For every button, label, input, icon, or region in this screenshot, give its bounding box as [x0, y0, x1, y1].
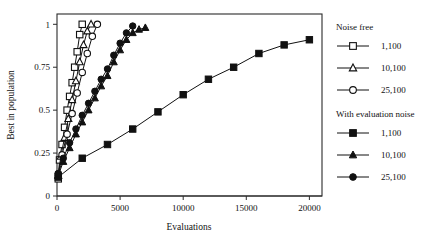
marker-open-circle — [89, 33, 95, 39]
marker-filled-square — [350, 130, 357, 137]
y-axis-ticks: 00.250.50.751 — [34, 20, 57, 202]
marker-filled-square — [130, 126, 136, 132]
series-line-noisy_1_100 — [58, 40, 309, 177]
marker-filled-circle — [55, 170, 61, 176]
marker-filled-circle — [85, 100, 91, 106]
marker-filled-triangle — [349, 151, 356, 158]
marker-filled-circle — [98, 76, 104, 82]
marker-filled-circle — [123, 30, 129, 36]
marker-open-circle — [74, 90, 80, 96]
legend-item-label: 10,100 — [381, 150, 406, 160]
chart-canvas: 00.250.50.751 05000100001500020000 Evalu… — [0, 0, 441, 244]
marker-open-triangle — [76, 58, 83, 65]
marker-open-triangle — [84, 27, 91, 34]
marker-open-triangle — [80, 41, 87, 48]
marker-filled-square — [155, 109, 161, 115]
marker-filled-square — [281, 42, 287, 48]
marker-filled-circle — [117, 40, 123, 46]
legend-item-label: 10,100 — [381, 63, 406, 73]
marker-filled-square — [230, 64, 236, 70]
marker-open-circle — [94, 21, 100, 27]
legend-item-noise_free_10_100[interactable]: 10,100 — [337, 63, 406, 73]
y-tick-label: 0 — [46, 191, 51, 201]
y-tick-label: 1 — [46, 20, 51, 30]
marker-open-circle — [84, 50, 90, 56]
marker-filled-circle — [111, 52, 117, 58]
series-noisy_1_100 — [55, 37, 313, 181]
marker-open-square — [77, 31, 83, 37]
chart-legend: Noise free1,10010,10025,100With evaluati… — [336, 22, 415, 182]
x-tick-label: 10000 — [172, 203, 195, 213]
y-axis-title: Best in population — [6, 70, 16, 140]
legend-heading: Noise free — [336, 22, 373, 32]
legend-item-noisy_25_100[interactable]: 25,100 — [337, 172, 406, 182]
marker-filled-circle — [350, 174, 357, 181]
marker-filled-square — [79, 155, 85, 161]
marker-open-triangle — [349, 64, 356, 71]
legend-item-noise_free_1_100[interactable]: 1,100 — [337, 41, 402, 51]
marker-open-square — [74, 49, 80, 55]
marker-open-triangle — [88, 21, 95, 28]
marker-open-square — [79, 21, 85, 27]
x-tick-label: 15000 — [235, 203, 258, 213]
marker-filled-square — [180, 91, 186, 97]
legend-item-noisy_10_100[interactable]: 10,100 — [337, 150, 406, 160]
legend-heading: With evaluation noise — [336, 109, 415, 119]
legend-item-noisy_1_100[interactable]: 1,100 — [337, 128, 402, 138]
figure: 00.250.50.751 05000100001500020000 Evalu… — [0, 0, 441, 244]
marker-filled-circle — [104, 66, 110, 72]
marker-filled-triangle — [142, 24, 149, 31]
legend-item-label: 25,100 — [381, 172, 406, 182]
marker-open-circle — [79, 69, 85, 75]
x-tick-label: 0 — [55, 203, 60, 213]
marker-filled-square — [104, 141, 110, 147]
x-tick-label: 5000 — [111, 203, 130, 213]
series-layer — [55, 21, 313, 183]
marker-filled-square — [306, 37, 312, 43]
marker-filled-square — [256, 50, 262, 56]
legend-item-noise_free_25_100[interactable]: 25,100 — [337, 85, 406, 95]
marker-filled-circle — [60, 155, 66, 161]
legend-item-label: 1,100 — [381, 128, 402, 138]
x-axis-title: Evaluations — [167, 222, 212, 232]
x-tick-label: 20000 — [298, 203, 321, 213]
y-tick-label: 0.25 — [34, 148, 50, 158]
y-tick-label: 0.75 — [34, 62, 50, 72]
marker-filled-square — [205, 76, 211, 82]
marker-open-circle — [64, 131, 70, 137]
x-axis-ticks: 05000100001500020000 — [55, 196, 322, 213]
marker-filled-circle — [130, 23, 136, 29]
marker-open-square — [350, 43, 357, 50]
marker-open-circle — [350, 87, 357, 94]
legend-item-label: 1,100 — [381, 41, 402, 51]
marker-filled-circle — [73, 126, 79, 132]
legend-item-label: 25,100 — [381, 85, 406, 95]
marker-open-circle — [69, 110, 75, 116]
marker-filled-circle — [66, 140, 72, 146]
marker-filled-circle — [79, 112, 85, 118]
marker-filled-circle — [92, 88, 98, 94]
y-tick-label: 0.5 — [39, 105, 51, 115]
